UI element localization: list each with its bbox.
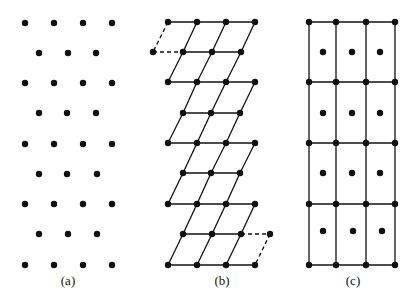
lattice-point — [180, 170, 186, 176]
panel-c-label: (c) — [346, 273, 360, 288]
lattice-point — [363, 19, 369, 25]
lattice-point — [80, 141, 86, 147]
lattice-point — [363, 201, 369, 207]
lattice-point — [392, 19, 398, 25]
lattice-point — [223, 201, 229, 207]
lattice-point — [51, 262, 57, 268]
lattice-point — [223, 19, 229, 25]
lattice-point — [65, 50, 71, 56]
lattice-point — [93, 50, 99, 56]
lattice-point — [306, 201, 312, 207]
lattice-point — [252, 79, 258, 85]
lattice-point — [64, 110, 70, 116]
lattice-point — [180, 231, 186, 237]
lattice-point — [109, 80, 115, 86]
lattice-point — [165, 262, 171, 268]
lattice-point — [109, 141, 115, 147]
lattice-point — [377, 110, 383, 116]
lattice-point — [94, 231, 100, 237]
lattice-point — [209, 231, 215, 237]
lattice-point — [363, 262, 369, 268]
lattice-point — [379, 228, 385, 234]
lattice-point — [180, 49, 186, 55]
lattice-point — [252, 19, 258, 25]
lattice-point — [320, 49, 326, 55]
lattice-point — [306, 140, 312, 146]
lattice-point — [194, 262, 200, 268]
lattice-point — [165, 201, 171, 207]
lattice-point — [150, 49, 156, 55]
lattice-point — [22, 20, 28, 26]
lattice-point — [363, 79, 369, 85]
lattice-point — [333, 262, 339, 268]
lattice-point — [238, 49, 244, 55]
lattice-point — [333, 79, 339, 85]
lattice-point — [363, 140, 369, 146]
lattice-point — [36, 231, 42, 237]
lattice-point — [349, 49, 355, 55]
lattice-point — [51, 20, 57, 26]
lattice-point — [350, 228, 356, 234]
lattice-point — [267, 231, 273, 237]
lattice-point — [392, 140, 398, 146]
lattice-point — [320, 110, 326, 116]
lattice-point — [51, 141, 57, 147]
lattice-point — [94, 171, 100, 177]
lattice-point — [109, 20, 115, 26]
lattice-point — [238, 231, 244, 237]
lattice-point — [349, 110, 355, 116]
lattice-point — [320, 228, 326, 234]
lattice-point — [194, 201, 200, 207]
lattice-point — [333, 201, 339, 207]
lattice-point — [333, 19, 339, 25]
lattice-point — [237, 170, 243, 176]
lattice-point — [109, 262, 115, 268]
lattice-point — [22, 141, 28, 147]
lattice-point — [333, 140, 339, 146]
lattice-point — [194, 79, 200, 85]
lattice-point — [51, 201, 57, 207]
lattice-point — [223, 79, 229, 85]
lattice-point — [306, 262, 312, 268]
lattice-point — [80, 262, 86, 268]
lattice-point — [36, 110, 42, 116]
lattice-point — [208, 170, 214, 176]
lattice-point — [223, 262, 229, 268]
lattice-point — [22, 201, 28, 207]
lattice-point — [109, 201, 115, 207]
lattice-point — [377, 49, 383, 55]
lattice-point — [165, 79, 171, 85]
lattice-point — [64, 171, 70, 177]
lattice-point — [51, 80, 57, 86]
lattice-point — [306, 79, 312, 85]
lattice-point — [252, 262, 258, 268]
lattice-point — [80, 20, 86, 26]
lattice-point — [252, 201, 258, 207]
lattice-point — [223, 140, 229, 146]
lattice-point — [93, 110, 99, 116]
lattice-point — [22, 80, 28, 86]
lattice-point — [392, 262, 398, 268]
lattice-point — [180, 110, 186, 116]
lattice-point — [209, 49, 215, 55]
lattice-point — [65, 231, 71, 237]
lattice-point — [392, 201, 398, 207]
lattice-figure: (a) (b) (c) — [0, 0, 417, 302]
figure-background — [0, 0, 417, 302]
lattice-point — [22, 262, 28, 268]
lattice-point — [392, 79, 398, 85]
lattice-point — [36, 171, 42, 177]
lattice-point — [252, 140, 258, 146]
lattice-point — [80, 80, 86, 86]
lattice-point — [194, 19, 200, 25]
lattice-point — [194, 140, 200, 146]
lattice-point — [80, 201, 86, 207]
lattice-point — [377, 170, 383, 176]
lattice-point — [237, 110, 243, 116]
lattice-point — [349, 170, 355, 176]
panel-b-label: (b) — [214, 273, 229, 288]
lattice-point — [36, 50, 42, 56]
panel-a-label: (a) — [61, 273, 75, 288]
lattice-point — [165, 19, 171, 25]
lattice-point — [306, 19, 312, 25]
